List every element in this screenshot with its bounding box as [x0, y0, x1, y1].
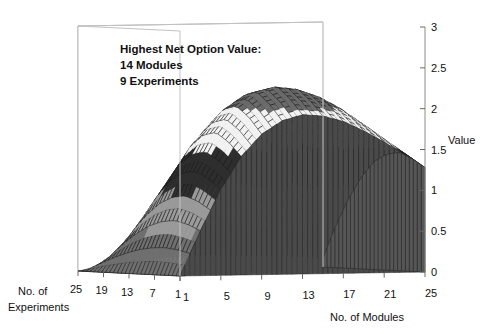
annotation-line-3: 9 Experiments — [120, 75, 199, 87]
svg-text:13: 13 — [302, 289, 314, 301]
value-axis-title: Value — [448, 134, 475, 146]
surface-chart: 00.511.522.531591317212525191371 Highest… — [0, 0, 492, 334]
svg-text:25: 25 — [70, 283, 82, 295]
plot-canvas: 00.511.522.531591317212525191371 Highest… — [0, 0, 492, 334]
svg-text:17: 17 — [343, 288, 355, 300]
annotation-line-1: Highest Net Option Value: — [120, 43, 261, 55]
svg-text:21: 21 — [384, 288, 396, 300]
svg-text:5: 5 — [224, 290, 230, 302]
svg-text:19: 19 — [95, 284, 107, 296]
svg-text:13: 13 — [121, 286, 133, 298]
svg-text:0: 0 — [431, 266, 437, 278]
experiments-axis-title-line2: Experiments — [8, 301, 70, 313]
annotation-line-2: 14 Modules — [120, 59, 183, 71]
svg-text:2: 2 — [431, 103, 437, 115]
svg-text:1: 1 — [431, 184, 437, 196]
svg-text:2.5: 2.5 — [431, 62, 446, 74]
svg-text:3: 3 — [431, 21, 437, 33]
modules-axis-title: No. of Modules — [330, 311, 404, 323]
experiments-axis-title-line1: No. of — [18, 285, 48, 297]
svg-text:1: 1 — [175, 288, 181, 300]
svg-text:1.5: 1.5 — [431, 144, 446, 156]
svg-text:25: 25 — [425, 287, 437, 299]
svg-text:7: 7 — [149, 287, 155, 299]
svg-text:1: 1 — [183, 291, 189, 303]
svg-text:0.5: 0.5 — [431, 225, 446, 237]
svg-text:9: 9 — [265, 290, 271, 302]
